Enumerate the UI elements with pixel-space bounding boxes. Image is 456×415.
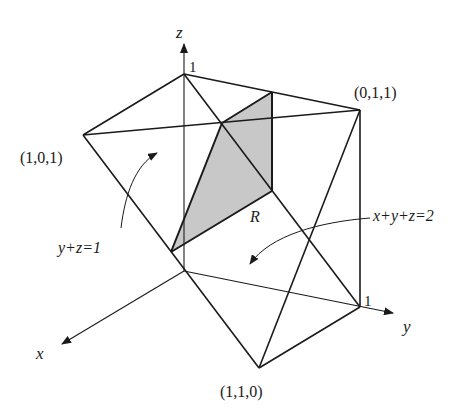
z-axis-label: z	[175, 23, 183, 42]
plane1-label: y+z=1	[56, 239, 101, 257]
y-axis-label: y	[401, 317, 411, 336]
diagram-canvas: z 1 y 1 x (1,0,1) (0,1,1) (1,1,0) R y+z=…	[0, 0, 456, 415]
x-axis	[62, 271, 184, 344]
plane1-pointer-arrow	[121, 153, 157, 228]
y-tick-label: 1	[364, 293, 372, 309]
region-r-shading	[171, 92, 272, 252]
region-diagram: z 1 y 1 x (1,0,1) (0,1,1) (1,1,0) R y+z=…	[0, 0, 456, 415]
vertex-label-110: (1,1,0)	[220, 383, 263, 401]
edge-z1-to-101	[83, 74, 184, 135]
edge-y1-to-110	[259, 307, 360, 368]
region-label: R	[249, 208, 260, 225]
z-tick-label: 1	[189, 59, 197, 75]
plane2-label: x+y+z=2	[372, 207, 434, 225]
vertex-label-101: (1,0,1)	[20, 149, 63, 167]
vertex-label-011: (0,1,1)	[354, 84, 397, 102]
x-axis-label: x	[35, 344, 44, 363]
